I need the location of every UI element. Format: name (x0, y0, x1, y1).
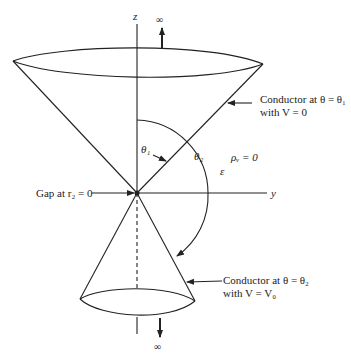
lower-cone-left-edge (80, 193, 137, 299)
theta2-label: θ₂ (194, 150, 203, 163)
upper-conductor-label-line2: with V = 0 (260, 106, 307, 119)
diagram-graphics (0, 0, 351, 362)
upper-cone-right-edge (137, 64, 263, 193)
coaxial-cones-diagram: z ∞ y θ₁ θ₂ ρᵥ = 0 ε Gap at r₂ = 0 Condu… (0, 0, 351, 362)
upper-cone-rim-front (13, 61, 263, 77)
upper-cone-rim-back (13, 48, 263, 64)
theta1-pointer (153, 155, 166, 161)
theta1-label: θ₁ (141, 143, 150, 156)
permittivity-label: ε (220, 165, 224, 178)
origin-gap-point (135, 191, 140, 196)
lower-cone-right-edge (137, 193, 195, 301)
infinity-top-label: ∞ (156, 13, 163, 26)
theta2-arc (137, 120, 208, 256)
y-axis-label: y (271, 187, 276, 200)
upper-conductor-label-line1: Conductor at θ = θ₁ (260, 93, 346, 106)
gap-label: Gap at r₂ = 0 (36, 187, 92, 200)
lower-conductor-label-line1: Conductor at θ = θ₂ (223, 274, 309, 287)
z-axis-label: z (133, 10, 137, 23)
lower-conductor-pointer (187, 281, 222, 282)
lower-conductor-label-line2: with V = V₀ (223, 287, 276, 300)
upper-cone-left-edge (13, 61, 137, 193)
lower-cone-rim-front (80, 299, 195, 315)
lower-cone-rim-back (80, 289, 195, 301)
charge-density-label: ρᵥ = 0 (231, 151, 258, 164)
infinity-bottom-label: ∞ (154, 340, 161, 353)
